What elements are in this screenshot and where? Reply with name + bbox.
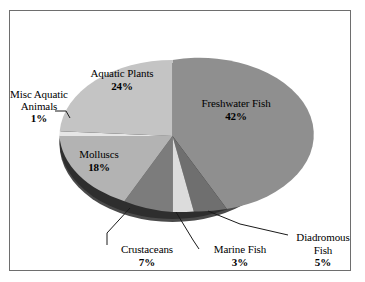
slice-label-name: Diadromous Fish — [286, 231, 360, 256]
slice-label-value: 7% — [104, 256, 190, 269]
slice-label-crustaceans: Crustaceans 7% — [104, 243, 190, 268]
slice-label-value: 24% — [70, 80, 174, 93]
slice-label-name: Freshwater Fish — [186, 97, 286, 110]
slice-label-name: Crustaceans — [104, 243, 190, 256]
slice-label-misc-aquatic-animals: Misc Aquatic Animals 1% — [8, 88, 70, 124]
slice-label-name: Marine Fish — [201, 243, 279, 256]
slice-label-aquatic-plants: Aquatic Plants 24% — [70, 67, 174, 92]
slice-label-value: 1% — [8, 112, 70, 124]
slice-label-value: 5% — [286, 256, 360, 269]
slice-label-name: Aquatic Plants — [70, 67, 174, 80]
slice-label-name: Misc Aquatic Animals — [8, 88, 70, 112]
slice-label-value: 3% — [201, 256, 279, 269]
slice-label-value: 42% — [186, 110, 286, 123]
slice-label-molluscs: Molluscs 18% — [58, 148, 140, 173]
pie-chart-figure: Aquatic Plants 24% Freshwater Fish 42% M… — [0, 0, 365, 282]
slice-label-value: 18% — [58, 161, 140, 174]
slice-label-freshwater-fish: Freshwater Fish 42% — [186, 97, 286, 122]
slice-label-name: Molluscs — [58, 148, 140, 161]
slice-label-diadromous-fish: Diadromous Fish 5% — [286, 231, 360, 269]
slice-label-marine-fish: Marine Fish 3% — [201, 243, 279, 268]
